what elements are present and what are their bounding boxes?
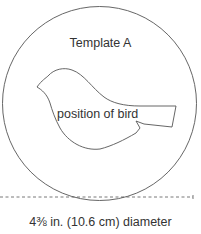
template-title: Template A — [0, 36, 201, 50]
bird-position-label: position of bird — [57, 107, 138, 121]
diameter-label: 4⅜ in. (10.6 cm) diameter — [0, 215, 201, 229]
